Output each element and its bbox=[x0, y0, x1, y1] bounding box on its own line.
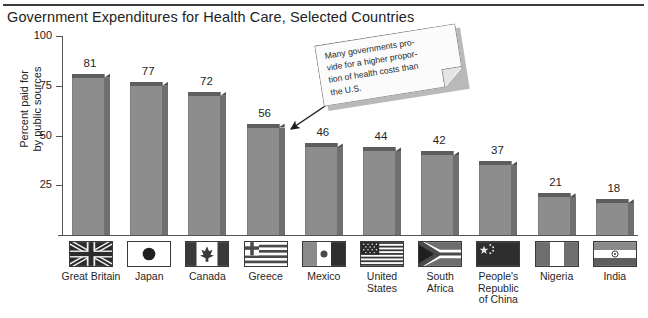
bar-side-face bbox=[162, 86, 168, 235]
bar-value-label: 72 bbox=[182, 75, 230, 87]
bar-canada: 72 bbox=[188, 92, 226, 235]
bar-value-label: 42 bbox=[415, 134, 463, 146]
bar-nigeria: 21 bbox=[538, 193, 576, 235]
flag-great-britain-icon bbox=[69, 241, 113, 267]
bar-side-face bbox=[337, 147, 343, 235]
bar-front-face bbox=[305, 143, 338, 235]
bar-side-face bbox=[279, 128, 285, 235]
bar-front-face bbox=[363, 147, 396, 235]
bar-top-face bbox=[421, 151, 453, 155]
flag-japan-icon bbox=[127, 241, 171, 267]
bar-greece: 56 bbox=[247, 124, 285, 235]
flag-greece-icon bbox=[244, 241, 288, 267]
bar-top-face bbox=[596, 199, 628, 203]
flag-india-icon bbox=[593, 241, 637, 267]
callout-note: Many governments pro- vide for a higher … bbox=[314, 23, 465, 107]
y-axis-title: Percent paid for by public sources bbox=[18, 34, 44, 184]
bar-front-face bbox=[188, 92, 221, 235]
y-axis-tick-label: 25 bbox=[18, 178, 52, 190]
y-axis-tick bbox=[56, 136, 63, 137]
bar-great-britain: 81 bbox=[72, 74, 110, 235]
bar-south-africa: 42 bbox=[421, 151, 459, 235]
category-label-india: India bbox=[577, 271, 648, 283]
bar-value-label: 37 bbox=[473, 144, 521, 156]
bar-front-face bbox=[421, 151, 454, 235]
y-axis-tick-label: 100 bbox=[18, 29, 52, 41]
y-axis-tick-label: 75 bbox=[18, 79, 52, 91]
bar-top-face bbox=[188, 92, 220, 96]
flag-canada-icon bbox=[185, 241, 229, 267]
bar-front-face bbox=[247, 124, 280, 235]
y-axis-title-line-1: Percent paid for bbox=[18, 34, 31, 184]
flag-mexico-icon bbox=[302, 241, 346, 267]
bar-value-label: 44 bbox=[357, 130, 405, 142]
x-axis-line bbox=[58, 235, 638, 236]
y-axis-tick-label: 50 bbox=[18, 129, 52, 141]
bar-japan: 77 bbox=[130, 82, 168, 235]
y-axis-tick bbox=[56, 86, 63, 87]
bar-top-face bbox=[72, 74, 104, 78]
category-label-line: of China bbox=[460, 294, 536, 306]
bar-value-label: 18 bbox=[590, 182, 638, 194]
bar-top-face bbox=[305, 143, 337, 147]
bar-india: 18 bbox=[596, 199, 634, 235]
y-axis-tick bbox=[56, 36, 63, 37]
bar-value-label: 81 bbox=[66, 57, 114, 69]
bar-front-face bbox=[72, 74, 105, 235]
bar-mexico: 46 bbox=[305, 143, 343, 235]
bar-front-face bbox=[130, 82, 163, 235]
bar-front-face bbox=[596, 199, 629, 235]
bar-side-face bbox=[220, 96, 226, 235]
chart-figure: Government Expenditures for Health Care,… bbox=[0, 0, 648, 318]
bar-value-label: 21 bbox=[532, 176, 580, 188]
bar-top-face bbox=[247, 124, 279, 128]
bar-side-face bbox=[395, 151, 401, 235]
flag-united-states-icon bbox=[360, 241, 404, 267]
plot-area: Percent paid for by public sources 10075… bbox=[0, 0, 648, 318]
bar-people-s-republic-of-china: 37 bbox=[479, 161, 517, 235]
bar-side-face bbox=[628, 203, 634, 235]
bar-front-face bbox=[479, 161, 512, 235]
category-label-line: India bbox=[577, 271, 648, 283]
bar-top-face bbox=[479, 161, 511, 165]
bar-united-states: 44 bbox=[363, 147, 401, 235]
y-axis-title-line-2: by public sources bbox=[31, 34, 44, 184]
y-axis-tick bbox=[56, 185, 63, 186]
bar-front-face bbox=[538, 193, 571, 235]
bar-top-face bbox=[130, 82, 162, 86]
bar-top-face bbox=[363, 147, 395, 151]
bar-top-face bbox=[538, 193, 570, 197]
flag-china-icon bbox=[476, 241, 520, 267]
bar-side-face bbox=[453, 155, 459, 235]
flag-south-africa-icon bbox=[418, 241, 462, 267]
flag-nigeria-icon bbox=[535, 241, 579, 267]
bar-side-face bbox=[570, 197, 576, 235]
bar-side-face bbox=[104, 78, 110, 235]
bar-value-label: 77 bbox=[124, 65, 172, 77]
bar-side-face bbox=[511, 165, 517, 235]
